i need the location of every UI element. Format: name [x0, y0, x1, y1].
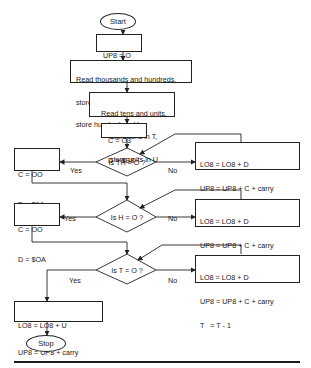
no-label-t: No	[168, 276, 177, 285]
loop-t-line-1: LO8 = LO8 + D	[200, 274, 299, 282]
loop-t-line-2: UP8 = UP8 + C + carry	[200, 298, 299, 306]
loop-h-line-2: UP8 = UP8 + C + carry	[200, 242, 299, 250]
init-line-1: UP8 = O	[103, 52, 141, 60]
read-tens-box: Read tens and units, store tens in T, st…	[89, 92, 175, 117]
start-terminal: Start	[100, 13, 136, 30]
loop-t-line-3: T = T - 1	[200, 322, 299, 330]
init-box: UP8 = O LO8 = O	[96, 34, 142, 52]
loop-th-box: LO8 = LO8 + D UP8 = UP8 + C + carry TH =…	[195, 142, 300, 170]
decision-t: Is T = O ?	[100, 266, 154, 275]
yes-label-h: Yes	[64, 214, 76, 223]
set-c00-0a-box: C = OO D = $OA	[14, 203, 60, 226]
loop-t-box: LO8 = LO8 + D UP8 = UP8 + C + carry T = …	[195, 255, 300, 283]
loop-th-line-1: LO8 = LO8 + D	[200, 161, 299, 169]
set-0a-line-1: C = OO	[18, 225, 59, 235]
read-tu-line-1: Read tens and units,	[94, 110, 174, 118]
yes-label-t: Yes	[69, 276, 81, 285]
set-c03-box: C = O3 D = $E8	[101, 123, 147, 138]
yes-label-th: Yes	[70, 166, 82, 175]
stop-terminal: Stop	[26, 335, 66, 352]
set-c00-64-box: C = OO D = $64	[14, 148, 60, 171]
set-0a-line-2: D = $OA	[18, 255, 59, 265]
no-label-h: No	[168, 214, 177, 223]
read-th-line-1: Read thousands and hundreds,	[76, 76, 191, 84]
loop-th-line-2: UP8 = UP8 + C + carry	[200, 185, 299, 193]
set-c03-line-1: C = O3	[108, 138, 146, 145]
decision-th: Is TH = O ?	[100, 158, 154, 167]
bottom-rule	[14, 361, 300, 363]
no-label-th: No	[168, 166, 177, 175]
decision-h: Is H = O ?	[100, 213, 154, 222]
read-thousands-box: Read thousands and hundreds, store thous…	[70, 60, 192, 83]
set-64-line-1: C = OO	[18, 170, 59, 180]
final-line-1: LO8 = LO8 + U	[18, 321, 102, 330]
loop-h-box: LO8 = LO8 + D UP8 = UP8 + C + carry H = …	[195, 199, 300, 227]
final-box: LO8 = LO8 + U UP8 = UP8 + carry	[14, 301, 103, 322]
loop-h-line-1: LO8 = LO8 + D	[200, 218, 299, 226]
